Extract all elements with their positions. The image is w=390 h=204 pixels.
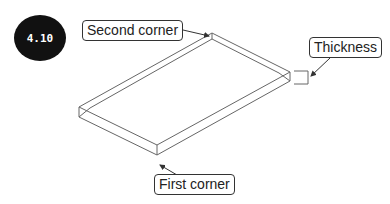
second-corner-callout: Second corner: [82, 20, 183, 41]
thickness-label: Thickness: [314, 39, 377, 55]
thickness-marker: [294, 71, 308, 84]
first-corner-label: First corner: [159, 176, 230, 192]
second-corner-leader: [183, 30, 209, 36]
box-wireframe: [79, 33, 290, 155]
second-corner-label: Second corner: [87, 22, 178, 38]
first-corner-callout: First corner: [154, 174, 235, 195]
thickness-callout: Thickness: [309, 37, 382, 58]
thickness-leader: [311, 58, 330, 76]
